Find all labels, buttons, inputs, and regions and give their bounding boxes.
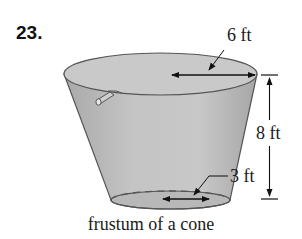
top-opening: [64, 53, 257, 95]
frustum-drawing: [0, 0, 302, 239]
top-radius-label: 6 ft: [227, 25, 252, 46]
bottom-radius-label: 3 ft: [230, 166, 255, 187]
figure: 23. 6 ft 8 ft 3 ft frustum of a cone: [0, 0, 302, 239]
problem-number: 23.: [16, 22, 42, 44]
height-label: 8 ft: [256, 123, 281, 144]
figure-caption: frustum of a cone: [0, 214, 302, 235]
